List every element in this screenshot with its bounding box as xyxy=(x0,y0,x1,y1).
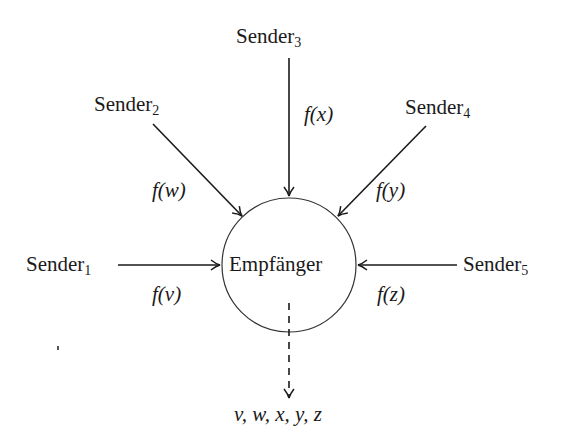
sender-5-label: Sender5 xyxy=(463,254,528,278)
sender-4-label: Sender4 xyxy=(405,97,470,121)
sender-5-function: f(z) xyxy=(377,284,405,305)
receiver-label: Empfänger xyxy=(229,254,322,275)
arrow-sender2 xyxy=(153,124,242,216)
stray-dot xyxy=(57,346,59,350)
sender-3-function: f(x) xyxy=(304,104,333,125)
output-label: v, w, x, y, z xyxy=(234,404,322,425)
sender-1-label: Sender1 xyxy=(26,254,91,278)
sender-2-label: Sender2 xyxy=(94,94,159,118)
sender-1-function: f(v) xyxy=(152,284,181,305)
sender-4-function: f(y) xyxy=(376,180,405,201)
sender-2-function: f(w) xyxy=(152,180,186,201)
sender-3-label: Sender3 xyxy=(236,26,301,50)
diagram-canvas xyxy=(0,0,578,444)
arrow-sender4 xyxy=(338,126,426,216)
